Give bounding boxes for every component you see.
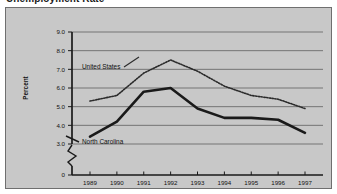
x-tick-label-1996: 1996: [271, 179, 285, 186]
annotation-north-carolina: North Carolina: [82, 138, 124, 145]
y-tick-label-7-0: 7.0: [56, 66, 65, 73]
page-title: Unemployment Rate: [6, 0, 104, 4]
line-chart-svg: 9.08.07.06.05.04.03.00198919901991199219…: [6, 8, 333, 190]
x-tick-label-1993: 1993: [191, 179, 205, 186]
series-line-north-carolina: [90, 88, 305, 137]
y-tick-label-zero: 0: [62, 171, 66, 178]
chart-title-strip: Unemployment Rate: [0, 0, 337, 7]
x-tick-label-1992: 1992: [164, 179, 178, 186]
series-line-united-states: [90, 60, 305, 109]
x-tick-label-1994: 1994: [217, 179, 231, 186]
annotation-united-states: United States: [82, 63, 120, 70]
plot-area: 9.08.07.06.05.04.03.00198919901991199219…: [6, 8, 333, 190]
annotation-leader-us-icon: [124, 57, 139, 67]
chart-figure: Unemployment Rate 9.08.07.06.05.04.03.00…: [0, 0, 337, 194]
y-tick-label-6-0: 6.0: [56, 84, 65, 91]
x-tick-label-1991: 1991: [137, 179, 151, 186]
y-tick-label-4-0: 4.0: [56, 122, 65, 129]
y-axis-title: Percent: [22, 75, 29, 99]
chart-panel: 9.08.07.06.05.04.03.00198919901991199219…: [5, 7, 332, 189]
y-tick-label-9-0: 9.0: [56, 28, 65, 35]
x-tick-label-1997: 1997: [298, 179, 312, 186]
y-axis-break-icon: [68, 145, 76, 166]
y-tick-label-8-0: 8.0: [56, 47, 65, 54]
x-tick-label-1990: 1990: [110, 179, 124, 186]
x-tick-label-1995: 1995: [244, 179, 258, 186]
y-tick-label-3-0: 3.0: [56, 140, 65, 147]
x-tick-label-1989: 1989: [83, 179, 97, 186]
y-tick-label-5-0: 5.0: [56, 103, 65, 110]
